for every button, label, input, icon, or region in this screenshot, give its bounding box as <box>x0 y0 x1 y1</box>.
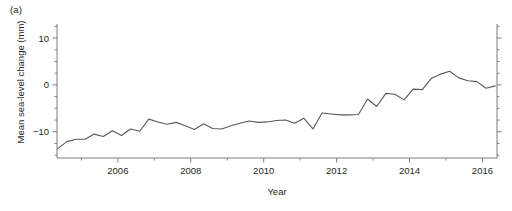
svg-text:2014: 2014 <box>399 165 420 176</box>
svg-text:−10: −10 <box>33 126 49 137</box>
svg-text:2016: 2016 <box>472 165 493 176</box>
svg-text:2012: 2012 <box>326 165 347 176</box>
svg-text:2006: 2006 <box>107 165 128 176</box>
svg-text:2010: 2010 <box>253 165 274 176</box>
axes <box>57 24 497 158</box>
svg-text:2008: 2008 <box>180 165 201 176</box>
figure-panel-a: (a) Mean sea-level change (mm) Year 2006… <box>0 0 512 211</box>
axis-ticks <box>53 26 502 162</box>
svg-text:0: 0 <box>44 79 49 90</box>
svg-text:10: 10 <box>38 33 49 44</box>
axis-tick-labels: 200620082010201220142016−10010 <box>33 33 493 176</box>
sea-level-line <box>58 71 495 148</box>
chart-plot-area: 200620082010201220142016−10010 <box>0 0 512 211</box>
